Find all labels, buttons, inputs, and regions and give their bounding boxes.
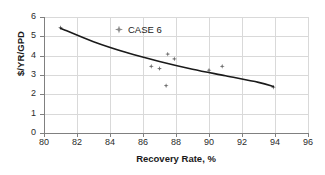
scatter-chart: $/YR/GPD Recovery Rate, % 80828486889092… <box>0 0 325 175</box>
y-tick-label-4: 4 <box>22 50 36 60</box>
data-point <box>156 65 163 72</box>
y-tick-label-6: 6 <box>22 11 36 21</box>
legend: CASE 6 <box>115 24 162 35</box>
x-tick-label-92: 92 <box>227 137 257 147</box>
y-tick-5 <box>40 36 44 37</box>
x-tick-label-80: 80 <box>29 137 59 147</box>
legend-label: CASE 6 <box>128 24 162 35</box>
y-tick-4 <box>40 56 44 57</box>
gridline-x-84 <box>110 17 111 133</box>
diamond-marker-icon <box>115 26 123 34</box>
data-point <box>270 84 277 91</box>
x-tick-label-84: 84 <box>95 137 125 147</box>
y-axis-line <box>44 17 45 134</box>
y-tick-label-5: 5 <box>22 30 36 40</box>
data-point <box>163 82 170 89</box>
x-tick-label-86: 86 <box>128 137 158 147</box>
gridline-x-82 <box>77 17 78 133</box>
x-axis-title: Recovery Rate, % <box>44 153 308 164</box>
gridline-x-94 <box>275 17 276 133</box>
data-point <box>171 55 178 62</box>
y-tick-6 <box>40 17 44 18</box>
x-tick-label-96: 96 <box>293 137 323 147</box>
x-tick-label-90: 90 <box>194 137 224 147</box>
plot-area <box>44 17 308 133</box>
data-point <box>148 63 155 70</box>
y-tick-label-2: 2 <box>22 88 36 98</box>
gridline-x-96 <box>308 17 309 133</box>
y-tick-2 <box>40 94 44 95</box>
data-point <box>57 24 64 31</box>
gridline-x-90 <box>209 17 210 133</box>
y-tick-label-3: 3 <box>22 69 36 79</box>
gridline-x-88 <box>176 17 177 133</box>
x-tick-label-82: 82 <box>62 137 92 147</box>
y-tick-0 <box>40 133 44 134</box>
x-tick-label-94: 94 <box>260 137 290 147</box>
gridline-x-92 <box>242 17 243 133</box>
x-tick-label-88: 88 <box>161 137 191 147</box>
y-tick-label-0: 0 <box>22 127 36 137</box>
y-tick-1 <box>40 114 44 115</box>
data-point <box>206 67 213 74</box>
data-point <box>219 63 226 70</box>
y-tick-label-1: 1 <box>22 108 36 118</box>
y-tick-3 <box>40 75 44 76</box>
